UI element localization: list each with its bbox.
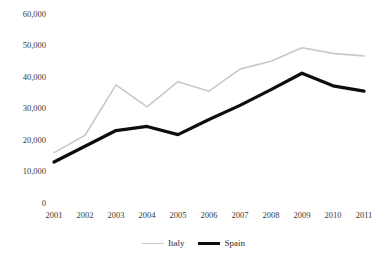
x-tick-2002: 2002 — [68, 210, 102, 220]
x-tick-2006: 2006 — [192, 210, 226, 220]
x-axis: 2001200220032004200520062007200820092010… — [0, 0, 387, 256]
x-tick-2007: 2007 — [223, 210, 257, 220]
x-tick-2003: 2003 — [99, 210, 133, 220]
legend-line-icon-spain — [198, 242, 220, 245]
x-tick-2011: 2011 — [347, 210, 381, 220]
x-tick-2005: 2005 — [161, 210, 195, 220]
x-tick-2001: 2001 — [37, 210, 71, 220]
x-tick-2008: 2008 — [254, 210, 288, 220]
line-chart-figure: 60,000 50,000 40,000 30,000 20,000 10,00… — [0, 0, 387, 256]
x-tick-2004: 2004 — [130, 210, 164, 220]
legend-line-icon-italy — [142, 243, 164, 244]
legend-label-italy: Italy — [168, 238, 185, 248]
x-tick-2009: 2009 — [285, 210, 319, 220]
legend-entry-spain[interactable]: Spain — [198, 238, 245, 248]
legend-entry-italy[interactable]: Italy — [142, 238, 185, 248]
x-tick-2010: 2010 — [316, 210, 350, 220]
legend-label-spain: Spain — [224, 238, 245, 248]
legend: Italy Spain — [0, 238, 387, 248]
